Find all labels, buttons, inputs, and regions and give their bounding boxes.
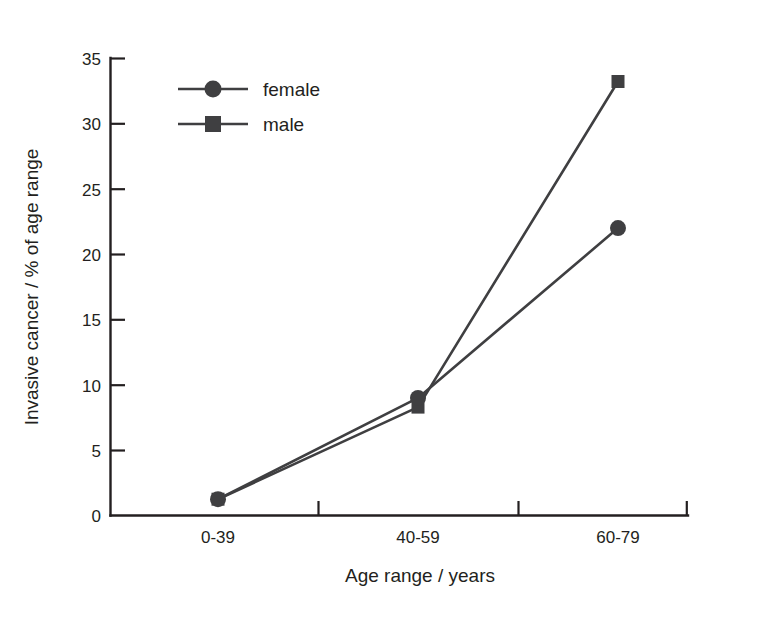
male-line <box>218 82 618 500</box>
y-tick-label-25: 25 <box>82 181 101 200</box>
x-tick-label-40-59: 40-59 <box>396 528 439 547</box>
series-male <box>212 75 625 506</box>
y-tick-label-10: 10 <box>82 377 101 396</box>
y-axis-title: Invasive cancer / % of age range <box>21 149 42 426</box>
x-axis-tick-labels: 0-39 40-59 60-79 <box>201 528 640 547</box>
chart-figure: 35 30 25 20 15 10 5 0 0-39 40-59 60-79 I… <box>0 0 759 624</box>
female-point-60-79 <box>610 220 626 236</box>
y-axis-ticks <box>111 59 126 451</box>
female-point-40-59 <box>410 390 426 406</box>
axes <box>111 58 689 516</box>
legend: female male <box>178 79 320 135</box>
legend-female-circle-marker <box>205 81 222 98</box>
x-tick-label-60-79: 60-79 <box>596 528 639 547</box>
x-tick-label-0-39: 0-39 <box>201 528 235 547</box>
y-tick-label-30: 30 <box>82 115 101 134</box>
y-axis-tick-labels: 35 30 25 20 15 10 5 0 <box>82 50 101 526</box>
legend-item-female[interactable]: female <box>178 79 320 100</box>
legend-female-label: female <box>263 79 320 100</box>
y-tick-label-0: 0 <box>92 507 101 526</box>
female-point-0-39 <box>210 491 226 507</box>
female-line <box>218 228 618 499</box>
legend-item-male[interactable]: male <box>178 114 304 135</box>
line-chart: 35 30 25 20 15 10 5 0 0-39 40-59 60-79 I… <box>0 0 759 624</box>
series-female <box>210 220 626 507</box>
x-axis-title: Age range / years <box>345 565 495 586</box>
y-tick-label-35: 35 <box>82 50 101 69</box>
y-tick-label-20: 20 <box>82 246 101 265</box>
y-tick-label-5: 5 <box>92 442 101 461</box>
y-tick-label-15: 15 <box>82 311 101 330</box>
legend-male-label: male <box>263 114 304 135</box>
male-point-60-79 <box>612 75 625 88</box>
legend-male-square-marker <box>205 116 221 132</box>
x-axis-ticks <box>319 501 687 516</box>
